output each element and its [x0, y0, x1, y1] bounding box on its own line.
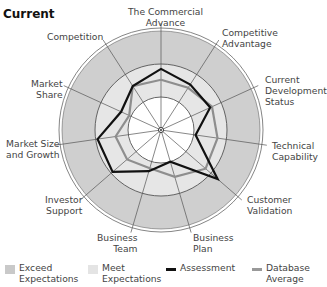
- axis-label-business-team: BusinessTeam: [97, 232, 138, 254]
- legend-exceed-expectations: ExceedExpectations: [5, 262, 78, 284]
- meet-swatch-icon: [88, 265, 98, 274]
- axis-label-business-plan: BusinessPlan: [193, 232, 234, 254]
- axis-label-market-size-growth: Market Sizeand Growth: [6, 138, 59, 160]
- legend-database-average: DatabaseAverage: [252, 262, 310, 284]
- axis-label-commercial-advance: The CommercialAdvance: [128, 6, 203, 28]
- axis-label-competitive-advantage: CompetitiveAdvantage: [222, 27, 278, 49]
- axis-label-investor-support: InvestorSupport: [45, 194, 82, 216]
- axis-label-competition: Competition: [47, 31, 103, 42]
- legend-meet-expectations: MeetExpectations: [88, 262, 161, 284]
- legend-assessment: Assessment: [166, 262, 235, 273]
- exceed-swatch-icon: [5, 265, 15, 274]
- assessment-line-icon: [166, 265, 176, 274]
- axis-label-customer-validation: CustomerValidation: [247, 194, 292, 216]
- database-line-icon: [252, 265, 262, 274]
- axis-label-technical-capability: TechnicalCapability: [272, 140, 318, 162]
- axis-label-market-share: MarketShare: [31, 78, 63, 100]
- axis-label-current-development-status: CurrentDevelopmentStatus: [265, 74, 327, 107]
